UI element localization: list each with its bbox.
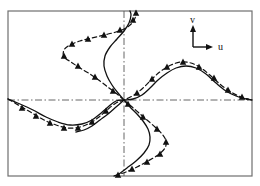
u-axis-label: u	[218, 41, 223, 52]
plot-background	[0, 0, 260, 186]
plot-svg: v u	[0, 0, 260, 186]
figure-container: v u	[0, 0, 260, 186]
v-axis-label: v	[190, 14, 195, 25]
